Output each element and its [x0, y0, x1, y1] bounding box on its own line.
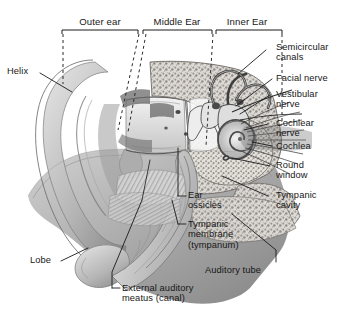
- region-label-outer-ear: Outer ear: [62, 16, 138, 27]
- label-ear-ossicles: Ear ossicles: [188, 190, 266, 211]
- region-label-middle-ear: Middle Ear: [142, 16, 212, 27]
- label-cochlea: Cochlea: [276, 141, 351, 151]
- ear-anatomy-figure: Outer ear Middle Ear Inner Ear Helix Lob…: [0, 0, 351, 328]
- region-label-inner-ear: Inner Ear: [214, 16, 280, 27]
- label-auditory-tube: Auditory tube: [205, 265, 281, 275]
- label-tympanic-membrane: Tympanic membrane (tympanum): [188, 219, 272, 250]
- label-vestibular-nerve: Vestibular nerve: [276, 89, 351, 110]
- label-helix: Helix: [7, 66, 47, 76]
- label-cochlear-nerve: Cochlear nerve: [276, 118, 351, 139]
- label-semicircular-canals: Semicircular canals: [276, 42, 351, 63]
- label-external-auditory-meatus: External auditory meatus (canal): [122, 283, 230, 304]
- label-lobe: Lobe: [30, 255, 64, 265]
- label-facial-nerve: Facial nerve: [276, 73, 351, 83]
- label-tympanic-cavity: Tympanic cavity: [276, 190, 351, 211]
- label-round-window: Round window: [276, 160, 351, 181]
